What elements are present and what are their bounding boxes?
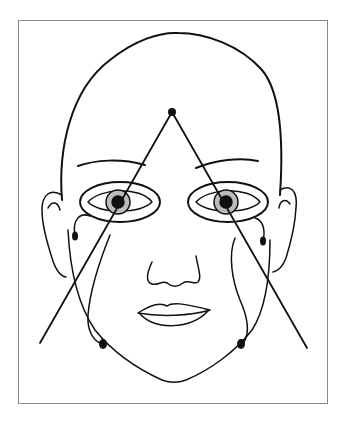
- electrode-right-jaw: [99, 339, 107, 349]
- electrode-left-jaw: [237, 339, 245, 349]
- right-eyebrow: [78, 161, 145, 166]
- electrode-forehead: [168, 108, 176, 116]
- head-outline: [61, 33, 281, 200]
- upper-lip: [138, 304, 210, 316]
- left-cheek-line: [231, 238, 247, 342]
- electrode-left-canthus: [260, 237, 266, 246]
- face-jaw-outline: [68, 230, 270, 382]
- left-eyebrow: [196, 159, 258, 168]
- right-cheek-line: [88, 235, 110, 343]
- left-ear-inner: [279, 201, 290, 208]
- right-wire: [74, 215, 90, 235]
- nose: [148, 256, 200, 286]
- face-diagram: [0, 0, 347, 422]
- left-triangle-line: [172, 112, 307, 348]
- right-ear-inner: [48, 203, 60, 210]
- right-triangle-line: [40, 112, 172, 343]
- electrode-right-canthus: [72, 232, 78, 241]
- right-ear: [42, 192, 66, 277]
